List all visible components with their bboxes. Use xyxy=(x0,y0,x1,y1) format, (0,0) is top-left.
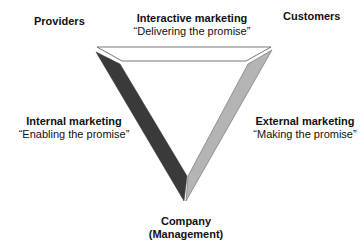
edge-left-label: Internal marketing “Enabling the promise… xyxy=(14,115,134,141)
management-label: (Management) xyxy=(128,228,244,241)
company-label: Company xyxy=(128,215,244,228)
interactive-marketing-title: Interactive marketing xyxy=(132,12,252,25)
internal-marketing-title: Internal marketing xyxy=(14,115,134,128)
vertex-company: Company (Management) xyxy=(128,215,244,241)
external-marketing-title: External marketing xyxy=(245,115,363,128)
vertex-customers: Customers xyxy=(283,10,340,23)
edge-right-label: External marketing “Making the promise” xyxy=(245,115,363,141)
vertex-providers: Providers xyxy=(34,15,85,28)
interactive-marketing-bar xyxy=(97,47,271,61)
external-marketing-subtitle: “Making the promise” xyxy=(245,128,363,141)
edge-top-label: Interactive marketing “Delivering the pr… xyxy=(132,12,252,38)
internal-marketing-subtitle: “Enabling the promise” xyxy=(14,128,134,141)
interactive-marketing-subtitle: “Delivering the promise” xyxy=(132,25,252,38)
